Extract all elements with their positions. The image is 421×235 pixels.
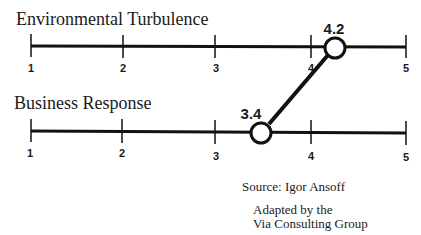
turbulence-marker: [325, 38, 345, 58]
gap-diagram: [0, 0, 421, 235]
response-marker: [251, 123, 271, 143]
source-note: Source: Igor Ansoff: [242, 179, 345, 194]
response-tick-label-4: 4: [308, 150, 314, 162]
environmental-turbulence-title: Environmental Turbulence: [16, 9, 208, 30]
response-value-label: 3.4: [241, 105, 262, 122]
turbulence-tick-label-2: 2: [120, 62, 126, 74]
adapted-note-line1: Adapted by the: [253, 202, 332, 217]
turbulence-tick-label-1: 1: [28, 62, 34, 74]
response-tick-label-5: 5: [403, 151, 409, 163]
response-tick-label-1: 1: [27, 147, 33, 159]
turbulence-tick-label-3: 3: [213, 62, 219, 74]
turbulence-tick-label-4: 4: [308, 62, 314, 74]
response-tick-label-2: 2: [119, 147, 125, 159]
gap-connector-line: [269, 55, 328, 124]
adapted-note-line2: Via Consulting Group: [253, 216, 368, 231]
turbulence-tick-label-5: 5: [403, 62, 409, 74]
environmental-turbulence-axis: [31, 34, 406, 58]
response-tick-label-3: 3: [213, 150, 219, 162]
business-response-axis: [31, 119, 406, 145]
turbulence-value-label: 4.2: [324, 20, 345, 37]
business-response-title: Business Response: [14, 93, 152, 114]
